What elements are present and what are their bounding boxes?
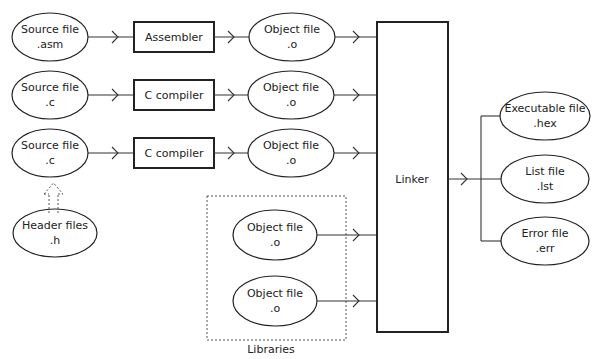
error-file-label: Error file.err <box>521 226 568 256</box>
source-c-label-1: Source file.c <box>21 80 79 110</box>
arrow-tool-to-object <box>214 31 249 159</box>
object-label-2: Object file.o <box>263 80 319 110</box>
arrow-source-to-tool <box>88 31 134 159</box>
header-files-label: Header files.h <box>22 218 88 248</box>
arrow-object-to-linker <box>334 31 377 159</box>
library-object-label-2: Object file.o <box>247 286 303 316</box>
object-label-1: Object file.o <box>264 22 320 52</box>
c-compiler-label-1: C compiler <box>144 88 203 103</box>
assembler-label: Assembler <box>145 30 203 45</box>
libraries-label: Libraries <box>247 342 295 357</box>
arrow-library-to-linker <box>317 229 377 307</box>
source-c-label-2: Source file.c <box>21 138 79 168</box>
object-label-3: Object file.o <box>263 138 319 168</box>
linker-label: Linker <box>395 172 428 187</box>
executable-file-label: Executable file.hex <box>504 101 585 131</box>
library-object-label-1: Object file.o <box>247 220 303 250</box>
c-compiler-label-2: C compiler <box>144 146 203 161</box>
list-file-label: List file.lst <box>525 164 564 194</box>
source-asm-label: Source file.asm <box>21 22 79 52</box>
arrow-linker-to-outputs <box>448 116 502 241</box>
